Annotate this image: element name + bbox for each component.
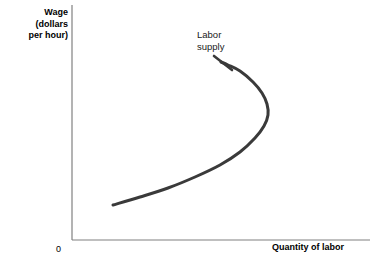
curve-label-leader-line: [214, 56, 232, 70]
x-axis-label: Quantity of labor: [272, 242, 344, 254]
origin-label: 0: [56, 244, 61, 255]
y-axis-label: Wage (dollars per hour): [8, 7, 68, 42]
labor-supply-curve-label: Labor supply: [197, 29, 224, 53]
labor-supply-curve: [113, 62, 268, 205]
labor-supply-figure: Wage (dollars per hour) Quantity of labo…: [0, 0, 378, 273]
